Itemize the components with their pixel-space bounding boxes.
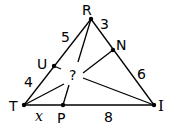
label-I: I <box>158 97 164 115</box>
point-N-dot <box>111 48 115 52</box>
cevian-RP-upper <box>78 19 91 62</box>
length-RU: 5 <box>61 29 70 45</box>
side-RT <box>24 19 91 105</box>
label-T: T <box>8 98 18 114</box>
cevian-RP-lower <box>63 85 69 105</box>
length-TP: x <box>35 108 43 124</box>
cevian-TN-upper <box>83 50 113 73</box>
center-question-label: ? <box>69 67 76 83</box>
vertex-I-dot <box>152 103 156 107</box>
label-R: R <box>82 2 92 18</box>
length-UT: 4 <box>24 74 33 90</box>
length-NI: 6 <box>137 66 146 82</box>
label-U: U <box>37 56 47 72</box>
vertex-T-dot <box>22 103 26 107</box>
triangle-diagram: R T I U N P 5 4 3 6 x 8 ? <box>0 0 172 128</box>
point-U-dot <box>52 64 56 68</box>
label-P: P <box>57 110 65 126</box>
length-RN: 3 <box>100 16 109 32</box>
point-P-dot <box>61 103 65 107</box>
length-PI: 8 <box>104 109 113 125</box>
label-N: N <box>116 37 126 53</box>
